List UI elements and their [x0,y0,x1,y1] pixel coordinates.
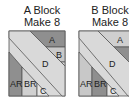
block-a-label-d: D [42,59,49,69]
block-a-label-br: BR [24,79,37,89]
block-b-label-d: D [109,59,116,69]
block-a-label-b: B [56,50,62,60]
block-b-label-c: C [110,86,117,96]
blocks-diagram: A B D AR BR C A D AR BR C [0,0,129,102]
block-b-label-ar: AR [80,79,93,89]
block-b-label-a: A [117,35,123,45]
block-a-label-c: C [40,86,47,96]
block-b-label-br: BR [94,79,107,89]
block-a-label-ar: AR [10,79,23,89]
block-a-label-a: A [49,35,55,45]
